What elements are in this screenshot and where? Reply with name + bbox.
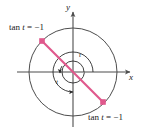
angle-label-t-lower: t	[56, 79, 58, 86]
point-marker-upper-left	[39, 38, 45, 44]
figure-canvas	[0, 0, 147, 138]
annotation-tan-upper-left: tan t = −1	[9, 23, 44, 32]
point-marker-lower-right	[100, 99, 106, 105]
math-figure-unit-circle: tan t = −1 tan t = −1 y x t t	[0, 0, 147, 138]
annotation-tan-lower-right: tan t = −1	[88, 113, 123, 122]
angle-label-t-upper: t	[79, 52, 81, 59]
y-axis-label: y	[66, 3, 70, 12]
annotation-tan-lower-right-suffix: = −1	[104, 112, 123, 122]
annotation-tan-lower-right-prefix: tan	[88, 112, 101, 122]
annotation-tan-upper-left-suffix: = −1	[25, 22, 44, 32]
annotation-tan-upper-left-prefix: tan	[9, 22, 22, 32]
x-axis-label: x	[129, 73, 133, 82]
